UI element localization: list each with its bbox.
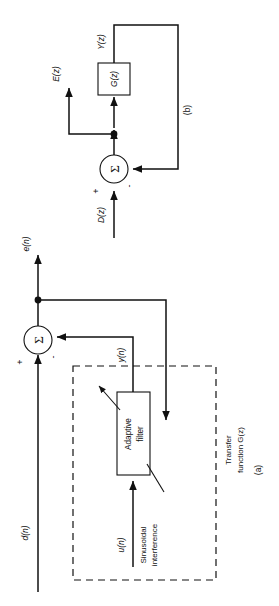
panel-b-caption: (b)	[182, 105, 192, 116]
panel-a: Σ + - Adaptive filter	[15, 236, 263, 592]
feedback-path-Yz	[114, 25, 178, 169]
label-en: e(n)	[21, 236, 31, 251]
panel-b: Σ + - G(z) E(z) D(z) Y(z) (b)	[51, 25, 192, 238]
summing-junction-a-minus: -	[48, 356, 58, 359]
block-adaptive-filter	[117, 392, 150, 475]
summing-junction-b-plus: +	[91, 188, 101, 193]
summing-junction-b-symbol: Σ	[107, 165, 122, 173]
label-transfer-function-line2: function G(z)	[236, 427, 245, 473]
label-sinusoidal-interference-line1: Sinusoidal	[139, 526, 148, 563]
label-Dz: D(z)	[96, 207, 106, 223]
adaptation-arrow-tail	[147, 464, 164, 492]
signal-line-yn	[57, 337, 133, 392]
label-sinusoidal-interference-line2: interference	[150, 523, 159, 566]
block-diagram-figure: Σ + - G(z) E(z) D(z) Y(z) (b)	[0, 0, 279, 606]
block-adaptive-filter-label-line2: filter	[136, 426, 145, 442]
summing-junction-a-symbol: Σ	[31, 336, 46, 344]
summing-junction-b-minus: -	[124, 185, 134, 188]
label-un: u(n)	[116, 537, 126, 552]
label-transfer-function-line1: Transfer	[224, 435, 233, 465]
label-yn: y(n)	[116, 348, 126, 364]
label-Ez: E(z)	[51, 66, 61, 82]
block-adaptive-filter-label-line1: Adaptive	[124, 418, 133, 450]
label-dn: d(n)	[20, 525, 30, 540]
label-Yz: Y(z)	[96, 34, 106, 50]
summing-junction-a-plus: +	[15, 359, 25, 364]
figure-canvas: Σ + - G(z) E(z) D(z) Y(z) (b)	[0, 0, 279, 606]
block-Gz-label: G(z)	[110, 71, 119, 87]
panel-a-caption: (a)	[253, 465, 263, 476]
